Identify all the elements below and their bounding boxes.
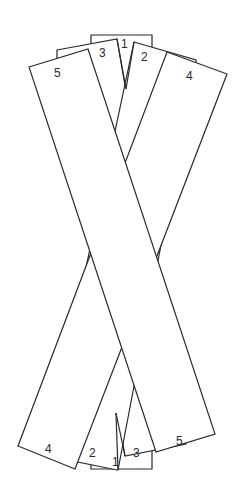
label-bottom-2: 2: [89, 446, 96, 460]
crossed-strips-diagram: 1 3 2 5 4 4 2 1 3 5: [0, 0, 242, 491]
label-bottom-4: 4: [45, 442, 52, 456]
label-bottom-3: 3: [133, 446, 140, 460]
label-top-2: 2: [141, 50, 148, 64]
label-top-3: 3: [99, 46, 106, 60]
label-bottom-5: 5: [176, 434, 183, 448]
label-top-5: 5: [54, 66, 61, 80]
label-bottom-1: 1: [112, 455, 119, 469]
label-top-1: 1: [121, 37, 128, 51]
label-top-4: 4: [186, 69, 193, 83]
